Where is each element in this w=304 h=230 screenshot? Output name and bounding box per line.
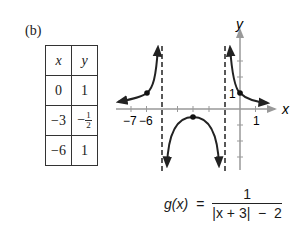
formula-equals: = (196, 196, 204, 212)
curve-right-branch (230, 47, 268, 103)
x-tick-label-1: 1 (253, 114, 260, 128)
formula-lhs: g(x) (164, 196, 188, 212)
point-neg3-neghalf (190, 114, 196, 120)
formula-fraction: 1 |x + 3| − 2 (212, 186, 282, 221)
x-tick-label-neg6: −6 (139, 114, 153, 128)
point-0-1 (237, 90, 243, 96)
curve-middle-branch (167, 117, 219, 166)
formula-denominator: |x + 3| − 2 (212, 204, 282, 221)
x-axis-label: x (281, 101, 290, 117)
curve-left-branch (118, 47, 158, 102)
function-formula: g(x) = 1 |x + 3| − 2 (164, 186, 282, 221)
x-tick-label-neg7: −7 (123, 114, 137, 128)
point-neg6-1 (144, 90, 150, 96)
y-tick-label-1: 1 (229, 87, 236, 101)
y-axis-label: y (235, 16, 244, 32)
formula-numerator: 1 (212, 186, 282, 204)
